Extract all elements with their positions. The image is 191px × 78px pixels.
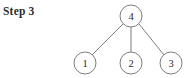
edge-group [92, 24, 164, 55]
tree-diagram-figure: Step 3 4 1 2 3 [0, 0, 191, 78]
node-child3-label: 3 [168, 58, 173, 69]
node-child1-label: 1 [82, 58, 87, 69]
tree-graphic: 4 1 2 3 [0, 0, 191, 78]
node-root-label: 4 [128, 11, 134, 22]
node-child3: 3 [160, 52, 182, 74]
node-child2-label: 2 [128, 58, 133, 69]
edge-root-to-child3 [139, 24, 164, 55]
edge-root-to-child1 [92, 24, 123, 55]
node-root: 4 [120, 5, 142, 27]
node-child1: 1 [74, 52, 96, 74]
node-child2: 2 [120, 52, 142, 74]
